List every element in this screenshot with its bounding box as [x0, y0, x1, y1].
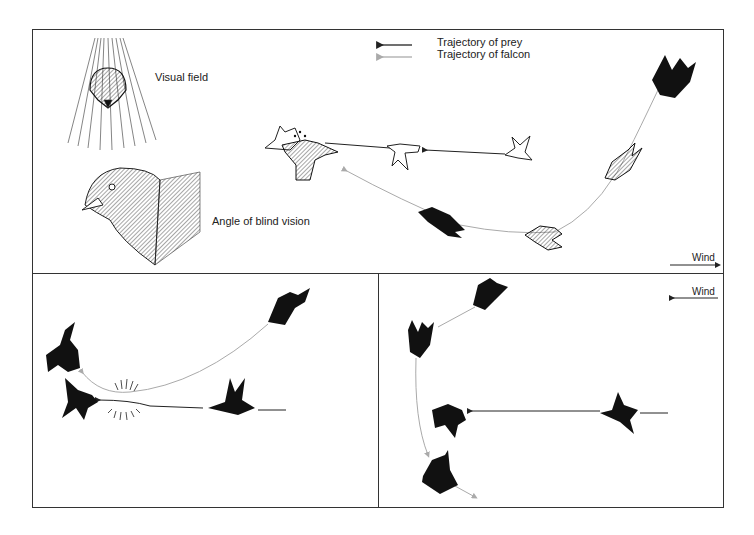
bl-duck-hit-icon [62, 378, 98, 420]
strike-falcon-pigeon-icon [265, 126, 338, 180]
bl-falcon-trajectory [82, 324, 268, 392]
diagram-illustration [0, 0, 754, 535]
falcon-approach-icon [418, 207, 465, 238]
br-duck-flying-icon [600, 392, 638, 434]
bl-impact-marks-icon [108, 379, 140, 420]
falcon-dive-hatched-icon [605, 143, 642, 180]
prey-pigeon-icon [505, 136, 532, 160]
bl-prey-trajectory [98, 400, 286, 410]
bl-falcon-bound-icon [46, 322, 80, 372]
falcon-stoop-icon [652, 55, 696, 98]
br-falcon-turn-icon [408, 320, 434, 358]
br-duck-hit-icon [432, 404, 466, 438]
br-falcon-high-icon [473, 278, 508, 310]
br-prey-trajectory [470, 411, 668, 413]
bl-duck-flying-icon [208, 378, 255, 415]
blind-vision-head-icon [82, 168, 200, 265]
falcon-level-hatched-icon [525, 226, 562, 250]
br-falcon-bind-icon [422, 450, 458, 494]
visual-field-head-icon [68, 38, 156, 150]
bl-falcon-stoop-icon [268, 288, 310, 325]
top-falcon-trajectory [345, 90, 658, 233]
prey-pigeon-escape-icon [387, 144, 420, 170]
